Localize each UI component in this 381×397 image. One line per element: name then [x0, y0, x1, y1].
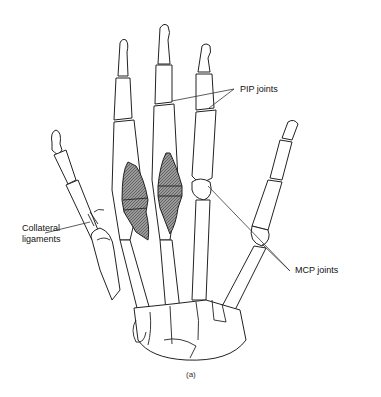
collateral-label-line1: Collateral [22, 223, 61, 234]
pip-joints-label: PIP joints [240, 84, 278, 95]
mcp-joints-label: MCP joints [295, 265, 338, 276]
ring-finger-bones [192, 44, 216, 300]
collateral-label-line2: ligaments [22, 234, 61, 245]
hand-diagram: PIP joints MCP joints Collateral ligamen… [0, 0, 381, 397]
hand-skeleton-illustration [0, 0, 381, 397]
thumb-bones [52, 130, 121, 300]
little-finger-bones [218, 120, 298, 320]
collateral-ligaments-label: Collateral ligaments [22, 223, 61, 245]
figure-caption: (a) [186, 370, 196, 379]
carpal-bones [133, 300, 246, 360]
